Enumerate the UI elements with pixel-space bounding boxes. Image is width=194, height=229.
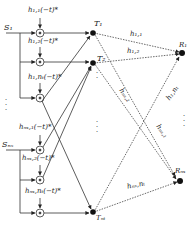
filter-label: h₁,₂(−t)*: [28, 38, 58, 45]
receiver-label-rnr: Rₙₛ: [175, 168, 185, 175]
transmitter-label-t1: T₁: [94, 20, 103, 28]
source-label-sns: Sₙₛ: [2, 141, 13, 149]
channel-label: h₁,₁: [130, 31, 142, 38]
multiplier-icon: [36, 94, 44, 102]
ellipsis-transmitters-upper: ··: [95, 70, 99, 80]
filter-label: hₙₛ,nₜ(−t)*: [25, 188, 61, 195]
transmitter-node-t1: [90, 30, 96, 36]
multiplier-icon: [36, 209, 44, 217]
filter-label: hₙₛ,₁(−t)*: [19, 124, 51, 131]
transmitter-label-t2: T₂: [97, 55, 106, 63]
ellipsis-receivers: ···: [182, 113, 186, 128]
filter-label: h₁,₁(−t)*: [28, 7, 58, 14]
ellipsis-transmitters: ···: [95, 119, 99, 134]
source-label-s1: S₁: [4, 24, 13, 32]
transmitter-label-tnt: Tₙₜ: [96, 215, 105, 222]
receiver-node-r1: [179, 50, 185, 56]
filter-label: hₙₛ,₂(−t)*: [22, 155, 54, 162]
ellipsis-sources: ···: [4, 97, 8, 112]
transmitter-node-tnt: [90, 209, 96, 215]
receiver-node-rnr: [177, 178, 183, 184]
multiplier-icon: [36, 58, 44, 66]
transmitter-node-t2: [90, 60, 96, 66]
multiplier-icon: [36, 176, 44, 184]
filter-label: h₁,nₜ(−t)*: [28, 74, 61, 81]
channel-label: h₁,₂: [127, 48, 139, 55]
multiplier-icon: [36, 146, 44, 154]
receiver-label-r1: R₁: [179, 42, 187, 49]
multiplier-icon: [36, 29, 44, 37]
